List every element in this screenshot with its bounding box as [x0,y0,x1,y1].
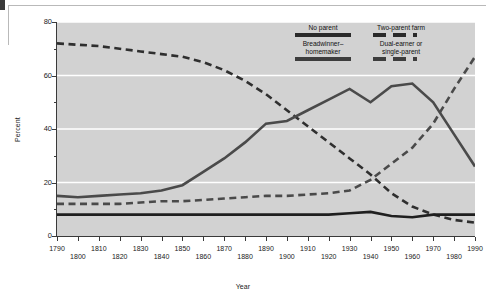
x-axis-tickmark [203,237,204,241]
x-axis-ticklabel: 1900 [272,253,302,260]
x-axis-ticklabel: 1850 [167,245,197,252]
x-axis-tickmark [224,237,225,241]
x-axis-tickmark [475,237,476,241]
legend-swatch-no-parent [295,33,351,37]
legend-entry-breadwinner: Breadwinner– homemaker [286,40,360,61]
x-axis-tickmark [433,237,434,241]
x-axis-ticklabel: 1920 [314,253,344,260]
series-line [57,84,475,198]
legend-column-right: Two-parent farm Dual-earner or single-pa… [364,24,438,64]
series-line [57,212,475,217]
legend-label-dual-earner-line2: single-parent [364,48,438,56]
legend-label-two-parent-farm: Two-parent farm [364,24,438,32]
x-axis-tickmark [287,237,288,241]
x-axis-tickmark [412,237,413,241]
legend-entry-no-parent: No parent [286,24,360,37]
x-axis-ticklabel: 1820 [105,253,135,260]
legend-label-dual-earner-line1: Dual-earner or [364,40,438,48]
y-axis-tickmark [52,183,57,184]
x-axis-ticklabel: 1880 [230,253,260,260]
legend-label-no-parent: No parent [286,24,360,32]
y-axis-minor-tickmark [54,49,57,50]
x-axis-tickmark [266,237,267,241]
legend-entry-two-parent-farm: Two-parent farm [364,24,438,37]
y-axis-tickmark [52,236,57,237]
x-axis-tickmark [245,237,246,241]
legend-entry-dual-earner: Dual-earner or single-parent [364,40,438,61]
page-margin-marker [0,0,5,10]
y-axis-ticklabel: 0 [28,232,52,240]
x-axis-tickmark [308,237,309,241]
x-axis-tickmark [141,237,142,241]
y-axis-tickmark [52,22,57,23]
legend-label-breadwinner-line1: Breadwinner– [286,40,360,48]
x-axis-ticklabel: 1790 [42,245,72,252]
y-axis-ticklabel: 80 [28,18,52,26]
x-axis-tickmark [57,237,58,241]
legend-column-left: No parent Breadwinner– homemaker [286,24,360,64]
legend-swatch-breadwinner [295,57,351,61]
x-axis-tickmark [78,237,79,241]
chart-legend: No parent Breadwinner– homemaker Two-par… [286,24,442,74]
legend-swatch-two-parent-farm [373,33,429,37]
x-axis-tickmark [182,237,183,241]
x-axis-ticklabel: 1960 [397,253,427,260]
x-axis-tickmark [391,237,392,241]
x-axis-tickmark [99,237,100,241]
x-axis-tickmark [454,237,455,241]
y-axis-ticklabel: 20 [28,179,52,187]
y-axis-title: Percent [14,100,21,160]
chart-figure: 020406080 Percent No parent Breadwinner–… [0,0,486,300]
x-axis-ticklabel: 1840 [147,253,177,260]
x-axis-ticklabel: 1810 [84,245,114,252]
x-axis-ticklabel: 1830 [126,245,156,252]
y-axis-minor-tickmark [54,102,57,103]
page-rule-top [8,5,486,6]
x-axis-ticklabel: 1860 [188,253,218,260]
page-rule-left [8,5,9,45]
y-axis-minor-tickmark [54,209,57,210]
y-axis-tickmark [52,76,57,77]
x-axis-ticklabel: 1950 [376,245,406,252]
y-axis-ticklabel: 40 [28,125,52,133]
y-axis-ticklabel: 60 [28,72,52,80]
x-axis-ticklabel: 1800 [63,253,93,260]
y-axis-ticklabels: 020406080 [26,0,52,300]
x-axis-tickmark [350,237,351,241]
x-axis-ticklabel: 1870 [209,245,239,252]
x-axis-ticklabel: 1940 [356,253,386,260]
x-axis-ticklabel: 1910 [293,245,323,252]
y-axis-minor-tickmark [54,156,57,157]
x-axis-ticklabel: 1930 [335,245,365,252]
x-axis-ticklabel: 1890 [251,245,281,252]
x-axis-tickmark [371,237,372,241]
x-axis-ticklabel: 1970 [418,245,448,252]
x-axis-tickmark [162,237,163,241]
x-axis-ticklabel: 1990 [460,245,486,252]
legend-swatch-dual-earner [373,57,429,61]
x-axis-tickmark [120,237,121,241]
x-axis-title: Year [0,283,486,290]
x-axis-tickmark [329,237,330,241]
legend-label-breadwinner-line2: homemaker [286,48,360,56]
y-axis-tickmark [52,129,57,130]
x-axis-ticklabel: 1980 [439,253,469,260]
